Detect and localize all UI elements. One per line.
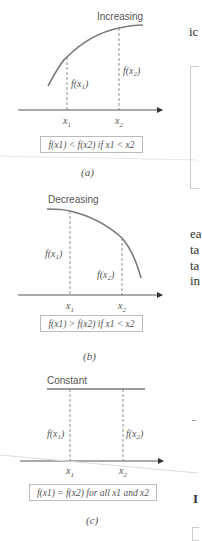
condition-box-c: f(x1) = f(x2) for all x1 and x2 xyxy=(29,484,157,501)
partial-box xyxy=(190,66,199,189)
f-x2-label: f(x2) xyxy=(97,269,115,282)
x1-tick-label: x1 xyxy=(62,115,71,129)
x1-tick-label: x1 xyxy=(65,300,74,314)
scan-artifact-line xyxy=(0,156,198,160)
partial-box xyxy=(192,527,199,541)
panel-a-increasing: Increasing f(x1) f(x2) x1 x2 (a) xyxy=(18,11,162,179)
text-fragment: ic xyxy=(189,24,198,40)
dash-fragment xyxy=(192,420,196,421)
text-fragment: in xyxy=(190,273,200,289)
condition-text-b: f(x1) > f(x2) if x1 < x2 xyxy=(48,319,134,329)
condition-text-a: f(x1) < f(x2) if x1 < x2 xyxy=(48,140,134,150)
panel-c-title: Constant xyxy=(47,375,87,386)
x1-tick-label: x1 xyxy=(65,465,74,479)
panel-b-decreasing: Decreasing f(x1) f(x2) x1 x2 (b) xyxy=(18,194,162,363)
x2-tick-label: x2 xyxy=(118,465,127,479)
caption-a: (a) xyxy=(81,166,94,179)
f-x1-label: f(x1) xyxy=(47,428,65,441)
decreasing-curve xyxy=(47,209,141,278)
x2-tick-label: x2 xyxy=(114,115,123,129)
caption-b: (b) xyxy=(83,350,96,363)
f-x2-label: f(x2) xyxy=(123,65,141,78)
f-x2-label: f(x2) xyxy=(126,428,144,441)
condition-box-b: f(x1) > f(x2) if x1 < x2 xyxy=(40,315,143,332)
panel-a-title: Increasing xyxy=(97,11,143,22)
panel-c-constant: Constant f(x1) f(x2) x1 x2 (c) xyxy=(20,375,163,527)
text-fragment: ta xyxy=(190,242,199,258)
condition-box-a: f(x1) < f(x2) if x1 < x2 xyxy=(40,136,143,153)
text-fragment: ea xyxy=(190,226,202,242)
x2-tick-label: x2 xyxy=(117,300,126,314)
text-fragment: ta xyxy=(190,258,199,274)
f-x1-label: f(x1) xyxy=(71,78,89,91)
scan-artifact-line xyxy=(0,455,198,473)
increasing-curve xyxy=(48,25,143,86)
panel-b-title: Decreasing xyxy=(48,194,99,205)
text-fragment: I xyxy=(193,491,198,507)
condition-text-c: f(x1) = f(x2) for all x1 and x2 xyxy=(37,488,149,498)
caption-c: (c) xyxy=(86,514,99,527)
f-x1-label: f(x1) xyxy=(45,248,63,261)
